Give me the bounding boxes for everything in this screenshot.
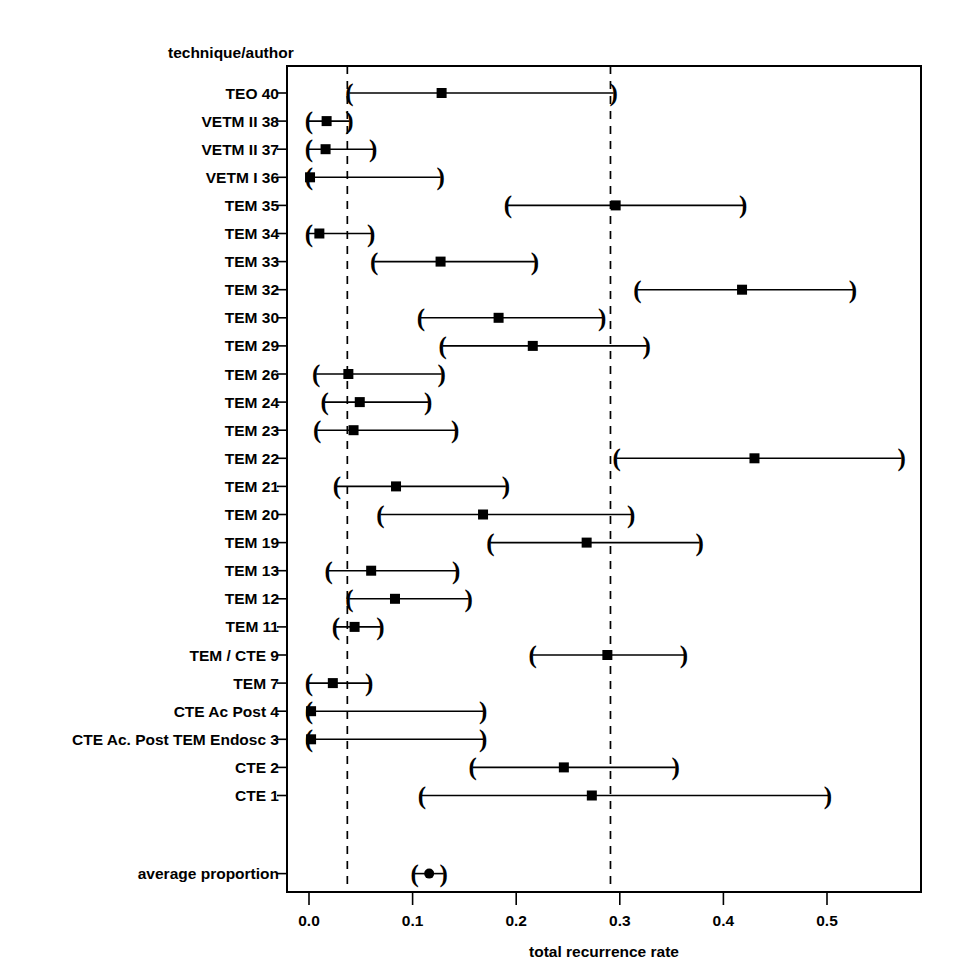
- point-estimate-marker: [737, 285, 747, 295]
- row-label: TEM / CTE 9: [189, 647, 279, 664]
- row-label: TEM 12: [225, 590, 279, 607]
- ci-upper-bracket: ): [452, 557, 460, 585]
- point-estimate-marker: [349, 425, 359, 435]
- ci-lower-bracket: (: [376, 501, 384, 529]
- row-label: TEM 32: [225, 281, 279, 298]
- x-axis-tick-label: 0.1: [402, 912, 424, 929]
- ci-upper-bracket: ): [695, 529, 703, 557]
- point-estimate-marker: [749, 453, 759, 463]
- ci-upper-bracket: ): [502, 472, 510, 500]
- point-estimate-marker: [306, 734, 316, 744]
- point-estimate-marker: [390, 594, 400, 604]
- point-estimate-marker: [350, 622, 360, 632]
- row-label: TEM 21: [225, 478, 280, 495]
- ci-upper-bracket: ): [436, 163, 444, 191]
- ci-upper-bracket: ): [345, 107, 353, 135]
- point-estimate-marker: [366, 566, 376, 576]
- ci-lower-bracket: (: [332, 613, 340, 641]
- forest-plot-chart: technique/author TEO 40VETM II 38VETM II…: [0, 0, 968, 980]
- row-label: TEM 20: [225, 506, 279, 523]
- point-estimate-marker: [478, 510, 488, 520]
- column-header-technique-author: technique/author: [168, 44, 294, 61]
- ci-upper-bracket: ): [598, 304, 606, 332]
- ci-upper-bracket: ): [440, 860, 448, 888]
- ci-lower-bracket: (: [305, 669, 313, 697]
- ci-lower-bracket: (: [305, 107, 313, 135]
- point-estimate-marker: [424, 869, 434, 879]
- ci-upper-bracket: ): [627, 501, 635, 529]
- ci-upper-bracket: ): [680, 641, 688, 669]
- point-estimate-marker: [306, 706, 316, 716]
- row-label: TEM 33: [225, 253, 280, 270]
- row-label: TEM 26: [225, 366, 280, 383]
- x-axis-tick-label: 0.3: [609, 912, 631, 929]
- ci-lower-bracket: (: [504, 191, 512, 219]
- point-estimate-marker: [314, 229, 324, 239]
- ci-upper-bracket: ): [424, 388, 432, 416]
- ci-upper-bracket: ): [369, 135, 377, 163]
- point-estimate-marker: [494, 313, 504, 323]
- ci-lower-bracket: (: [633, 276, 641, 304]
- point-estimate-marker: [559, 762, 569, 772]
- point-estimate-marker: [611, 200, 621, 210]
- ci-lower-bracket: (: [305, 220, 313, 248]
- x-axis-tick-label: 0.0: [298, 912, 320, 929]
- row-label: TEM 30: [225, 309, 279, 326]
- row-label: TEM 23: [225, 422, 280, 439]
- x-axis-tick-label: 0.5: [816, 912, 838, 929]
- ci-upper-bracket: ): [609, 79, 617, 107]
- x-axis-tick-label: 0.4: [713, 912, 735, 929]
- ci-upper-bracket: ): [849, 276, 857, 304]
- point-estimate-marker: [343, 369, 353, 379]
- row-label: TEM 7: [233, 675, 279, 692]
- point-estimate-marker: [602, 650, 612, 660]
- ci-lower-bracket: (: [370, 248, 378, 276]
- ci-upper-bracket: ): [367, 220, 375, 248]
- row-label: CTE Ac Post 4: [174, 703, 280, 720]
- ci-lower-bracket: (: [411, 860, 419, 888]
- row-label: TEM 35: [225, 197, 280, 214]
- row-label: TEM 13: [225, 562, 280, 579]
- point-estimate-marker: [328, 678, 338, 688]
- ci-upper-bracket: ): [365, 669, 373, 697]
- point-estimate-marker: [528, 341, 538, 351]
- point-estimate-marker: [321, 144, 331, 154]
- ci-lower-bracket: (: [418, 782, 426, 810]
- ci-lower-bracket: (: [305, 135, 313, 163]
- ci-lower-bracket: (: [333, 472, 341, 500]
- ci-upper-bracket: ): [531, 248, 539, 276]
- ci-upper-bracket: ): [464, 585, 472, 613]
- ci-lower-bracket: (: [345, 79, 353, 107]
- point-estimate-marker: [322, 116, 332, 126]
- row-label: TEM 22: [225, 450, 279, 467]
- row-label: TEM 24: [225, 394, 280, 411]
- ci-lower-bracket: (: [486, 529, 494, 557]
- point-estimate-marker: [391, 481, 401, 491]
- row-label: TEM 11: [226, 618, 280, 635]
- point-estimate-marker: [436, 257, 446, 267]
- ci-lower-bracket: (: [438, 332, 446, 360]
- ci-upper-bracket: ): [437, 360, 445, 388]
- ci-upper-bracket: ): [451, 416, 459, 444]
- row-label: TEM 29: [225, 337, 280, 354]
- row-label: average proportion: [138, 865, 279, 882]
- ci-lower-bracket: (: [325, 557, 333, 585]
- ci-lower-bracket: (: [613, 444, 621, 472]
- ci-lower-bracket: (: [320, 388, 328, 416]
- ci-lower-bracket: (: [417, 304, 425, 332]
- row-label: TEM 19: [225, 534, 280, 551]
- row-label: VETM II 37: [201, 141, 279, 158]
- ci-upper-bracket: ): [479, 725, 487, 753]
- ci-lower-bracket: (: [312, 360, 320, 388]
- row-label: CTE Ac. Post TEM Endosc 3: [72, 731, 279, 748]
- point-estimate-marker: [582, 538, 592, 548]
- x-axis-title: total recurrence rate: [529, 943, 679, 960]
- point-estimate-marker: [355, 397, 365, 407]
- ci-upper-bracket: ): [643, 332, 651, 360]
- ci-upper-bracket: ): [739, 191, 747, 219]
- point-estimate-marker: [437, 88, 447, 98]
- ci-upper-bracket: ): [479, 697, 487, 725]
- x-axis-tick-label: 0.2: [505, 912, 527, 929]
- ci-lower-bracket: (: [529, 641, 537, 669]
- point-estimate-marker: [587, 791, 597, 801]
